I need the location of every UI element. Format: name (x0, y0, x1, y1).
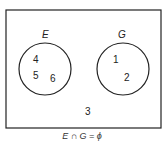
set-e-circle (19, 43, 71, 95)
set-g-label: G (118, 29, 126, 40)
element-1: 1 (113, 54, 119, 65)
element-4: 4 (33, 54, 39, 65)
element-2: 2 (124, 72, 130, 83)
universe-box (6, 10, 161, 128)
element-3: 3 (85, 106, 91, 117)
set-e-label: E (42, 29, 49, 40)
element-6: 6 (50, 73, 56, 84)
caption: E ∩ G = ϕ (0, 131, 164, 141)
set-g-circle (97, 43, 149, 95)
element-5: 5 (33, 70, 39, 81)
